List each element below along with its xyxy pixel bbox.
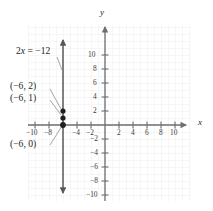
plotted-points bbox=[60, 108, 66, 128]
point-neg6-1 bbox=[60, 115, 65, 120]
y-tick-label--2: −2 bbox=[90, 135, 98, 142]
point-label-neg6-0: (−6, 0) bbox=[10, 139, 36, 149]
y-tick-label--4: −4 bbox=[90, 149, 98, 156]
grid-background bbox=[28, 25, 190, 201]
x-tick-label-10: 10 bbox=[170, 129, 177, 136]
x-tick-label-4: 4 bbox=[131, 129, 135, 136]
y-tick-label-10: 10 bbox=[88, 51, 95, 58]
point-neg6-0 bbox=[60, 122, 66, 128]
x-tick-label--8: −8 bbox=[44, 129, 52, 136]
point-neg6-2 bbox=[60, 108, 65, 113]
x-tick-label--4: −4 bbox=[72, 129, 80, 136]
y-tick-label--8: −8 bbox=[90, 177, 98, 184]
graph-canvas bbox=[0, 0, 213, 211]
y-tick-label--6: −6 bbox=[90, 163, 98, 170]
y-axis-label: y bbox=[100, 8, 104, 17]
equation-rest: = −12 bbox=[25, 45, 50, 56]
x-axis-label: x bbox=[198, 118, 202, 127]
point-label-neg6-1: (−6, 1) bbox=[10, 93, 36, 103]
coordinate-plane-figure: x y −10 −8 −4 −2 2 4 6 8 10 10 8 6 4 2 −… bbox=[0, 0, 213, 211]
y-tick-label-6: 6 bbox=[93, 79, 97, 86]
y-tick-label-4: 4 bbox=[93, 93, 97, 100]
x-tick-label-2: 2 bbox=[117, 129, 121, 136]
y-tick-label-8: 8 bbox=[93, 65, 97, 72]
y-tick-label--10: −10 bbox=[86, 191, 98, 198]
y-tick-label-2: 2 bbox=[93, 107, 97, 114]
x-tick-label-8: 8 bbox=[159, 129, 163, 136]
x-tick-label-6: 6 bbox=[145, 129, 149, 136]
x-tick-label--10: −10 bbox=[26, 129, 38, 136]
point-label-neg6-2: (−6, 2) bbox=[10, 81, 36, 91]
equation-annotation: 2x = −12 bbox=[16, 46, 50, 56]
